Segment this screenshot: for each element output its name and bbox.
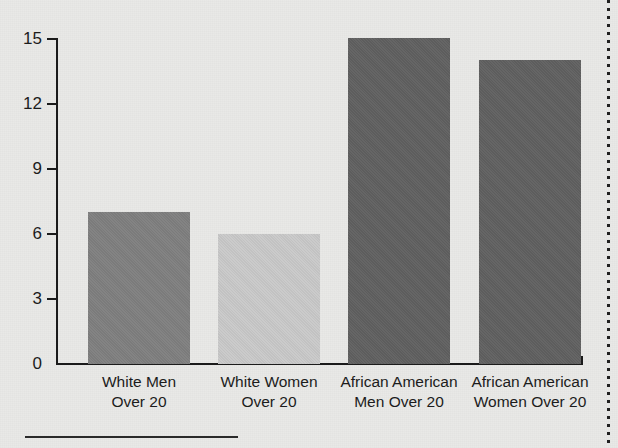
x-axis-label-white-women-line1: White Women [220, 373, 317, 390]
bottom-horizontal-rule [25, 436, 238, 438]
x-axis-label-white-men-line1: White Men [102, 373, 176, 390]
bar-african-american-women-over-20[interactable] [479, 60, 581, 364]
bar-white-men-over-20[interactable] [88, 212, 190, 364]
x-axis-label-african-american-men: African American Men Over 20 [324, 372, 474, 412]
x-axis-label-african-american-women: African American Women Over 20 [455, 372, 605, 412]
plot-area: 15 12 9 6 3 0 White Men [0, 0, 618, 448]
x-axis-label-african-american-men-line2: Men Over 20 [324, 392, 474, 412]
right-dotted-margin-rule [607, 0, 610, 448]
x-axis-label-white-women-line2: Over 20 [194, 392, 344, 412]
x-axis-label-african-american-men-line1: African American [340, 373, 457, 390]
x-axis-label-african-american-women-line2: Women Over 20 [455, 392, 605, 412]
x-axis-label-white-men-line2: Over 20 [64, 392, 214, 412]
bar-white-women-over-20[interactable] [218, 234, 320, 364]
x-axis-label-white-men: White Men Over 20 [64, 372, 214, 412]
bar-african-american-men-over-20[interactable] [348, 38, 450, 364]
x-axis-label-african-american-women-line1: African American [471, 373, 588, 390]
x-axis-label-white-women: White Women Over 20 [194, 372, 344, 412]
bar-chart-figure: 15 12 9 6 3 0 White Men [0, 0, 618, 448]
bars-layer [0, 0, 618, 364]
